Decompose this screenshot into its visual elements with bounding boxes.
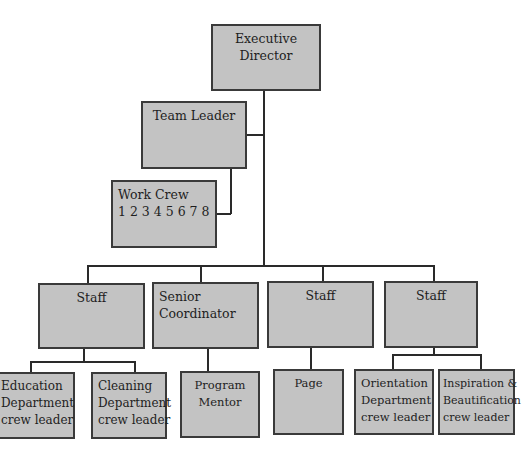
node-staff-3: Staff	[384, 281, 478, 348]
node-label: Program	[182, 377, 258, 394]
connector-staff-1	[87, 265, 89, 283]
node-label: Coordinator	[159, 305, 257, 322]
node-label: Director	[213, 47, 319, 64]
connector-executive-trunk	[263, 90, 265, 266]
connector-staff-1-branch	[30, 361, 135, 363]
node-education: Education Department crew leader	[0, 372, 75, 439]
node-label: Staff	[40, 289, 143, 306]
node-label: Staff	[386, 287, 476, 304]
node-label: Work Crew	[118, 186, 215, 203]
connector-education	[30, 361, 32, 372]
node-label: Staff	[269, 287, 372, 304]
node-label: Department	[98, 395, 165, 412]
node-label: Mentor	[182, 394, 258, 411]
node-label: Inspiration &	[443, 375, 513, 392]
node-label: Cleaning	[98, 378, 165, 395]
node-program-mentor: Program Mentor	[180, 371, 260, 438]
node-label: Department	[361, 392, 432, 409]
node-label: Page	[275, 375, 342, 392]
node-staff-2: Staff	[267, 281, 374, 348]
connector-team-leader-down	[230, 168, 232, 214]
node-label: Senior	[159, 288, 257, 305]
node-cleaning: Cleaning Department crew leader	[91, 372, 167, 439]
connector-senior-coordinator	[200, 265, 202, 282]
connector-staff-3	[433, 265, 435, 281]
node-label: Orientation	[361, 375, 432, 392]
node-executive-director: Executive Director	[211, 24, 321, 91]
connector-cleaning	[134, 361, 136, 372]
node-senior-coordinator: Senior Coordinator	[152, 282, 259, 349]
connector-orientation	[392, 354, 394, 369]
connector-program-mentor	[207, 348, 209, 371]
connector-team-leader	[246, 134, 264, 136]
connector-staff-1-down	[83, 348, 85, 362]
node-label: Team Leader	[143, 107, 245, 124]
node-label: Beautification	[443, 392, 513, 409]
node-work-crew: Work Crew 1 2 3 4 5 6 7 8	[111, 180, 217, 248]
connector-staff-3-branch	[392, 354, 481, 356]
node-label: 1 2 3 4 5 6 7 8	[118, 203, 215, 220]
connector-staff-2	[322, 265, 324, 281]
node-page: Page	[273, 369, 344, 435]
node-label: Department	[1, 395, 73, 412]
connector-page	[310, 347, 312, 369]
node-orientation: Orientation Department crew leader	[354, 369, 434, 435]
node-staff-1: Staff	[38, 283, 145, 349]
node-label: Executive	[213, 30, 319, 47]
node-label: crew leader	[1, 412, 73, 429]
connector-inspiration	[480, 354, 482, 369]
node-label: crew leader	[98, 412, 165, 429]
node-label: crew leader	[361, 409, 432, 426]
node-team-leader: Team Leader	[141, 101, 247, 169]
node-inspiration: Inspiration & Beautification crew leader	[438, 369, 515, 435]
connector-work-crew	[216, 213, 231, 215]
node-label: Education	[1, 378, 73, 395]
node-label: crew leader	[443, 409, 513, 426]
connector-staff-bus	[87, 265, 434, 267]
